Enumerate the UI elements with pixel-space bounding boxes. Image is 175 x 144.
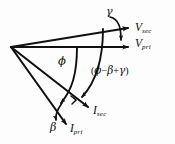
label-gamma: γ <box>106 6 113 17</box>
arc-gamma <box>110 17 121 40</box>
phasor-diagram-figure: Vsec Vpri Isec Ipri γ ϕ β (ϕ−β+γ) <box>0 0 175 144</box>
label-v-pri-subscript: pri <box>142 43 151 51</box>
label-v-sec: Vsec <box>135 22 152 35</box>
label-v-sec-subscript: sec <box>142 27 152 35</box>
expr-close-paren: ) <box>125 65 128 76</box>
label-i-sec: Isec <box>93 105 107 118</box>
label-phi: ϕ <box>58 56 66 68</box>
label-v-sec-symbol: V <box>135 21 142 33</box>
arc-phi-beta-gamma <box>82 29 103 97</box>
vector-v-sec <box>11 28 128 47</box>
label-i-sec-subscript: sec <box>97 110 107 118</box>
label-v-pri-symbol: V <box>135 37 142 49</box>
label-i-pri-subscript: pri <box>74 128 83 136</box>
expr-phi: ϕ <box>94 64 101 76</box>
label-beta: β <box>50 122 56 133</box>
label-angle-expression: (ϕ−β+γ) <box>91 65 129 76</box>
label-v-pri: Vpri <box>135 38 151 51</box>
label-i-pri: Ipri <box>70 123 83 136</box>
